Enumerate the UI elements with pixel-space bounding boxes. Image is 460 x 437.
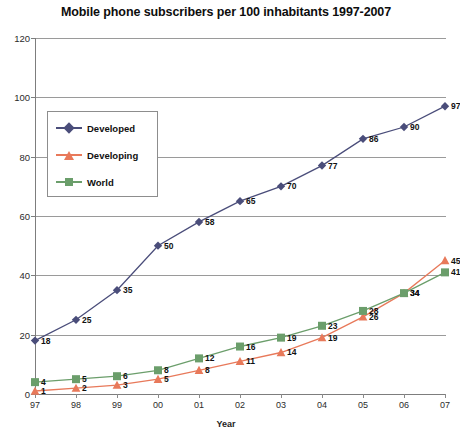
gridline (35, 335, 446, 336)
legend-item-world: World (56, 175, 114, 189)
x-tick-label: 98 (64, 400, 88, 410)
y-tick-label: 0 (0, 389, 30, 400)
chart-legend: Developed Developing World (47, 111, 158, 197)
data-point-marker (236, 357, 245, 365)
series-line-world (35, 272, 445, 382)
legend-swatch-world (56, 176, 82, 188)
y-tick-label: 40 (0, 270, 30, 281)
data-label: 45 (451, 256, 460, 266)
legend-item-developed: Developed (56, 121, 135, 135)
data-label: 35 (123, 285, 132, 295)
data-point-marker (72, 375, 80, 383)
data-label: 70 (287, 181, 296, 191)
data-point-marker (441, 102, 449, 110)
data-point-marker (113, 372, 121, 380)
data-label: 50 (164, 241, 173, 251)
triangle-marker-icon (64, 151, 74, 160)
data-point-marker (400, 289, 409, 297)
data-label: 25 (82, 315, 91, 325)
data-label: 19 (328, 333, 337, 343)
data-point-marker (359, 135, 367, 143)
x-tick-label: 00 (146, 400, 170, 410)
gridline (35, 275, 446, 276)
data-label: 8 (205, 365, 210, 375)
x-tick-label: 99 (105, 400, 129, 410)
data-label: 14 (287, 347, 296, 357)
square-marker-icon (65, 178, 73, 186)
data-label: 19 (287, 333, 296, 343)
data-label: 5 (82, 374, 87, 384)
data-label: 41 (451, 267, 460, 277)
data-point-marker (441, 256, 450, 264)
data-point-marker (154, 366, 162, 374)
data-point-marker (277, 182, 285, 190)
data-label: 28 (369, 306, 378, 316)
x-tick-mark (281, 394, 282, 398)
x-tick-mark (199, 394, 200, 398)
data-label: 18 (41, 336, 50, 346)
gridline (35, 97, 446, 98)
data-point-marker (318, 322, 326, 330)
x-tick-label: 02 (228, 400, 252, 410)
data-label: 23 (328, 321, 337, 331)
legend-swatch-developing (56, 149, 82, 161)
data-point-marker (195, 366, 204, 374)
data-point-marker (154, 375, 163, 383)
data-label: 6 (123, 371, 128, 381)
data-point-marker (277, 348, 286, 356)
data-point-marker (236, 197, 244, 205)
data-label: 86 (369, 134, 378, 144)
data-point-marker (72, 316, 80, 324)
x-tick-label: 07 (433, 400, 457, 410)
y-tick-label: 80 (0, 151, 30, 162)
gridline (35, 38, 446, 39)
chart-title: Mobile phone subscribers per 100 inhabit… (0, 5, 452, 19)
x-tick-mark (322, 394, 323, 398)
legend-label-developing: Developing (87, 150, 138, 161)
x-tick-mark (158, 394, 159, 398)
x-tick-label: 01 (187, 400, 211, 410)
x-axis-title: Year (0, 419, 452, 429)
data-point-marker (359, 312, 368, 320)
data-point-marker (236, 343, 244, 351)
data-label: 8 (164, 365, 169, 375)
data-point-marker (113, 286, 121, 294)
x-tick-mark (35, 394, 36, 398)
data-label: 58 (205, 217, 214, 227)
data-label: 77 (328, 161, 337, 171)
data-point-marker (113, 381, 122, 389)
data-label: 65 (246, 196, 255, 206)
data-label: 12 (205, 353, 214, 363)
y-tick-label: 60 (0, 211, 30, 222)
x-tick-mark (76, 394, 77, 398)
data-label: 34 (410, 288, 419, 298)
gridline (35, 216, 446, 217)
legend-swatch-developed (56, 122, 82, 134)
data-label: 2 (82, 383, 87, 393)
x-tick-label: 97 (23, 400, 47, 410)
x-tick-mark (363, 394, 364, 398)
legend-item-developing: Developing (56, 148, 138, 162)
data-point-marker (72, 384, 81, 392)
legend-label-world: World (87, 177, 114, 188)
x-tick-mark (404, 394, 405, 398)
x-tick-mark (117, 394, 118, 398)
y-tick-label: 120 (0, 33, 30, 44)
data-label: 16 (246, 342, 255, 352)
data-label: 3 (123, 380, 128, 390)
x-tick-label: 05 (351, 400, 375, 410)
x-tick-label: 04 (310, 400, 334, 410)
series-line-developing (35, 261, 445, 392)
data-point-marker (318, 161, 326, 169)
data-point-marker (154, 241, 162, 249)
y-tick-label: 100 (0, 92, 30, 103)
data-label: 4 (41, 377, 46, 387)
data-label: 1 (41, 386, 46, 396)
x-tick-mark (445, 394, 446, 398)
legend-label-developed: Developed (87, 123, 135, 134)
data-point-marker (359, 307, 367, 315)
diamond-marker-icon (63, 122, 74, 133)
data-label: 97 (451, 101, 460, 111)
